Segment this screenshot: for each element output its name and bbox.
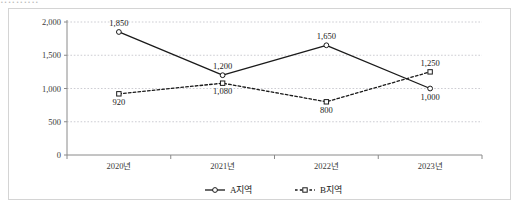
data-label: 1,080 (213, 86, 232, 96)
data-label: 1,000 (421, 92, 440, 102)
legend-marker (213, 188, 218, 193)
data-label: 1,650 (317, 31, 336, 41)
y-axis-label: 500 (48, 117, 61, 127)
series-line-2 (119, 72, 430, 102)
line-chart: 05001,0001,5002,000 2020년2021년2022년2023년… (0, 0, 523, 211)
x-axis-label: 2021년 (210, 161, 235, 171)
x-axis-label: 2022년 (314, 161, 339, 171)
data-point-marker (116, 30, 121, 35)
data-point-marker (324, 100, 328, 104)
x-axis-label: 2020년 (106, 161, 131, 171)
y-axis-label: 1,000 (42, 84, 61, 94)
data-point-marker (117, 92, 121, 96)
y-axis: 05001,0001,5002,000 (42, 17, 67, 160)
data-label: 1,250 (421, 58, 440, 68)
data-point-marker (220, 81, 224, 85)
data-series (116, 30, 432, 104)
x-axis: 2020년2021년2022년2023년 (67, 155, 482, 171)
series-line-1 (119, 32, 430, 89)
data-labels: 1,8501,2001,6501,0009201,0808001,250 (109, 18, 439, 115)
data-point-marker (428, 86, 433, 91)
legend-label-1: A지역 (230, 185, 253, 195)
y-axis-label: 1,500 (42, 50, 61, 60)
data-label: 1,200 (213, 61, 232, 71)
data-label: 1,850 (109, 18, 128, 28)
x-axis-label: 2023년 (418, 161, 443, 171)
data-point-marker (324, 43, 329, 48)
legend-marker (303, 188, 307, 192)
data-label: 920 (113, 97, 126, 107)
y-axis-label: 0 (57, 150, 61, 160)
data-label: 800 (320, 105, 333, 115)
y-axis-label: 2,000 (42, 17, 61, 27)
data-point-marker (428, 70, 432, 74)
chart-canvas: 05001,0001,5002,000 2020년2021년2022년2023년… (0, 0, 523, 211)
legend-label-2: B지역 (320, 185, 342, 195)
chart-legend: A지역B지역 (205, 185, 342, 195)
data-point-marker (220, 73, 225, 78)
